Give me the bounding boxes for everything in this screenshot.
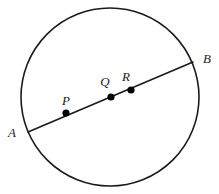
point-label-a: A [7,125,16,140]
point-label-p: P [61,93,70,108]
point-label-q: Q [100,74,110,89]
point-dot-p [62,109,69,116]
figure-canvas: APQRB [0,0,219,194]
point-dot-r [127,86,134,93]
point-label-b: B [203,51,211,66]
point-label-r: R [121,69,130,84]
point-dot-q [107,93,114,100]
geometry-diagram: APQRB [0,0,219,194]
